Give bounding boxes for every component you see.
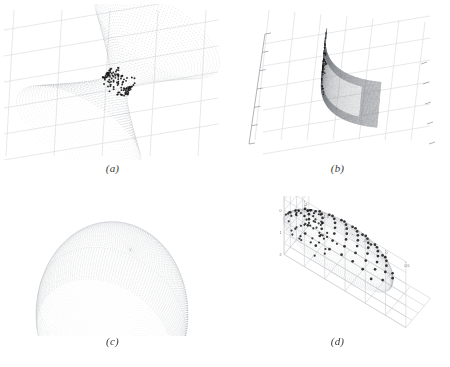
panel-c-plot — [0, 196, 225, 336]
panel-b-caption: (b) — [225, 162, 450, 174]
panel-a-caption: (a) — [0, 162, 225, 174]
panel-b-plot — [225, 4, 450, 160]
figure-panel-grid: (a) (b) (c) (d) — [0, 0, 450, 367]
panel-d-caption: (d) — [225, 335, 450, 347]
panel-c-caption: (c) — [0, 335, 225, 347]
panel-d-plot — [225, 196, 450, 336]
panel-b: (b) — [225, 4, 450, 190]
panel-d: (d) — [225, 196, 450, 367]
panel-a: (a) — [0, 4, 225, 190]
panel-a-plot — [0, 4, 225, 160]
panel-c: (c) — [0, 196, 225, 367]
